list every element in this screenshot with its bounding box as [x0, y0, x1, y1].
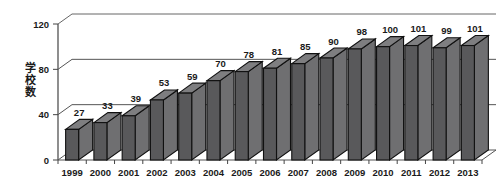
bar-front-face: [433, 48, 446, 160]
bar-2007: [292, 54, 319, 160]
bar-2002: [150, 90, 177, 160]
y-tick-label-40: 40: [38, 109, 49, 120]
value-label-2000: 33: [102, 100, 113, 111]
x-tick-label-2000: 2000: [90, 167, 111, 178]
y-axis-title: 学校数: [22, 62, 38, 98]
bar-2010: [377, 37, 404, 160]
bar-front-face: [66, 129, 79, 160]
bar-side-face: [220, 71, 234, 160]
x-tick-label-2006: 2006: [259, 167, 280, 178]
value-label-2002: 53: [159, 77, 170, 88]
value-label-2006: 81: [272, 46, 283, 57]
x-tick-label-2013: 2013: [457, 167, 478, 178]
bar-side-face: [248, 62, 262, 160]
bar-2003: [179, 83, 206, 160]
x-tick-label-2003: 2003: [175, 167, 196, 178]
bar-front-face: [122, 116, 135, 160]
y-tick-label-80: 80: [38, 64, 49, 75]
value-label-2012: 99: [441, 25, 452, 36]
x-tick-label-2011: 2011: [401, 167, 422, 178]
bar-2001: [122, 106, 149, 160]
x-tick-label-2005: 2005: [231, 167, 253, 178]
wall-depth-edge-top: [58, 14, 72, 24]
bar-2011: [405, 36, 432, 160]
value-label-2013: 101: [467, 23, 484, 34]
bar-2009: [348, 39, 375, 160]
bar-front-face: [235, 72, 248, 160]
bar-side-face: [361, 39, 375, 160]
bar-front-face: [377, 47, 390, 160]
value-label-2004: 70: [215, 58, 226, 69]
bar-front-face: [292, 64, 305, 160]
gridline-80-depth: [58, 59, 72, 69]
bar-2006: [263, 58, 290, 160]
bar-side-face: [418, 36, 432, 160]
bar-front-face: [150, 100, 163, 160]
value-label-2003: 59: [187, 71, 198, 82]
value-label-2011: 101: [410, 23, 427, 34]
x-tick-label-2001: 2001: [118, 167, 140, 178]
bar-side-face: [390, 37, 404, 160]
bar-chart: 120 80 40 0 2733395359707881859098100101…: [0, 0, 504, 192]
value-label-2008: 90: [328, 36, 339, 47]
bar-front-face: [461, 46, 474, 160]
y-tick-label-0: 0: [44, 155, 49, 166]
bar-2000: [94, 113, 121, 160]
bar-side-face: [192, 83, 206, 160]
bar-front-face: [320, 58, 333, 160]
bar-front-face: [179, 93, 192, 160]
bar-2008: [320, 48, 347, 160]
bar-front-face: [348, 49, 361, 160]
x-tick-label-2007: 2007: [288, 167, 309, 178]
bar-side-face: [305, 54, 319, 160]
value-label-2010: 100: [382, 24, 398, 35]
x-tick-label-2008: 2008: [316, 167, 337, 178]
x-tick-label-2004: 2004: [203, 167, 225, 178]
y-tick-label-120: 120: [33, 19, 49, 30]
x-tick-label-2002: 2002: [146, 167, 167, 178]
value-label-2001: 39: [130, 93, 141, 104]
x-tick-label-2010: 2010: [372, 167, 393, 178]
bar-2005: [235, 62, 262, 160]
bar-side-face: [163, 90, 177, 160]
bar-side-face: [474, 36, 488, 160]
value-label-2009: 98: [357, 26, 368, 37]
x-tick-label-2012: 2012: [429, 167, 450, 178]
x-tick-label-1999: 1999: [62, 167, 83, 178]
bar-2013: [461, 36, 488, 160]
bar-2004: [207, 71, 234, 160]
y-axis-title-text: 学校数: [22, 62, 37, 98]
bar-front-face: [405, 46, 418, 160]
gridline-40-depth: [58, 105, 72, 115]
bar-front-face: [94, 123, 107, 160]
bar-front-face: [263, 68, 276, 160]
bar-front-face: [207, 81, 220, 160]
value-label-2007: 85: [300, 41, 311, 52]
bar-side-face: [277, 58, 291, 160]
value-label-1999: 27: [74, 107, 85, 118]
bar-side-face: [446, 38, 460, 160]
chart-canvas: 120 80 40 0 2733395359707881859098100101…: [0, 0, 504, 192]
x-tick-label-2009: 2009: [344, 167, 365, 178]
bar-side-face: [333, 48, 347, 160]
bar-1999: [66, 119, 93, 160]
value-label-2005: 78: [243, 49, 254, 60]
bar-2012: [433, 38, 460, 160]
x-axis-group: 1999200020012002200320042005200620072008…: [58, 160, 482, 178]
